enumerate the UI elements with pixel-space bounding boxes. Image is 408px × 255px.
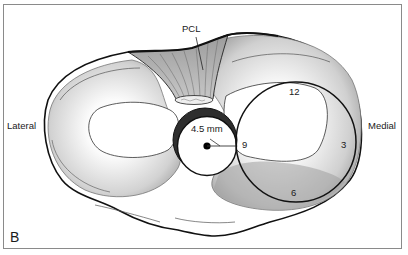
lateral-label: Lateral xyxy=(7,121,36,131)
clock-12-label: 12 xyxy=(289,87,300,97)
clock-9-label: 9 xyxy=(242,140,247,150)
panel-label: B xyxy=(10,230,19,244)
measurement-label: 4.5 mm xyxy=(191,124,223,134)
clock-6-label: 6 xyxy=(291,188,296,198)
clock-3-label: 3 xyxy=(341,140,346,150)
medial-label: Medial xyxy=(368,121,396,131)
pcl-footprint xyxy=(175,96,213,105)
pcl-label: PCL xyxy=(182,24,200,34)
lateral-meniscus-inner xyxy=(89,102,179,157)
